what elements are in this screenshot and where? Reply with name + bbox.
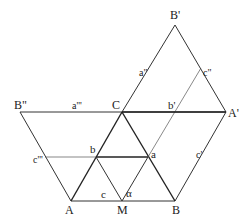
label-C: C: [112, 98, 120, 112]
label-alpha: α: [126, 187, 132, 199]
label-M: M: [117, 203, 128, 217]
label-c1: c': [196, 149, 202, 160]
geometry-diagram: B' c" a" B" a''' C b' A' c''' b a c' A c…: [0, 0, 249, 224]
label-A1: A': [228, 106, 239, 120]
label-a2: a": [139, 67, 148, 78]
label-c2: c": [203, 67, 212, 78]
label-b1: b': [168, 99, 176, 111]
label-B2: B": [14, 98, 27, 112]
line-B2-A: [20, 112, 71, 201]
label-b: b: [90, 143, 96, 155]
label-A: A: [65, 203, 74, 217]
label-c: c: [101, 188, 106, 200]
label-a3: a''': [72, 100, 82, 111]
line-b-M: [96, 157, 122, 201]
label-a: a: [151, 148, 156, 160]
label-B1: B': [170, 8, 180, 22]
label-c3: c''': [33, 154, 43, 165]
label-B: B: [172, 203, 180, 217]
